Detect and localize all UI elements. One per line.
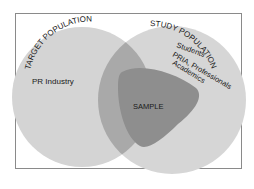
sample-label: SAMPLE <box>133 102 163 111</box>
pr-industry-label: PR Industry <box>32 77 74 86</box>
venn-diagram: TARGET POPULATION PR Industry STUDY POPU… <box>0 0 254 189</box>
